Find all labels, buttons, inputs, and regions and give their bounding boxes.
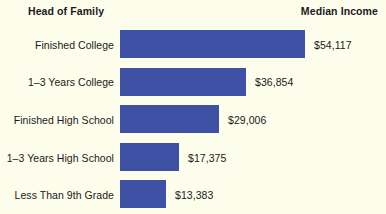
bar-value-label: $36,854	[255, 76, 293, 88]
bar-value-label: $29,006	[228, 114, 266, 126]
bar-row: Finished High School$29,006	[0, 101, 386, 139]
bar-value-label: $54,117	[314, 39, 352, 51]
category-label: Finished College	[0, 39, 114, 51]
median-income-bar-chart: Head of Family Median Income Finished Co…	[0, 0, 386, 214]
category-label: Less Than 9th Grade	[0, 189, 114, 201]
bar	[120, 30, 305, 58]
bar-row: 1–3 Years College$36,854	[0, 64, 386, 102]
bar-row: Less Than 9th Grade$13,383	[0, 176, 386, 214]
bar	[120, 180, 166, 208]
bar-row: Finished College$54,117	[0, 26, 386, 64]
chart-header: Head of Family Median Income	[0, 0, 386, 26]
bar	[120, 105, 219, 133]
bar	[120, 68, 246, 96]
category-label: Finished High School	[0, 114, 114, 126]
bar-rows: Finished College$54,1171–3 Years College…	[0, 26, 386, 214]
bar	[120, 143, 179, 171]
category-label: 1–3 Years High School	[0, 152, 114, 164]
head-of-family-column-title: Head of Family	[28, 5, 104, 17]
bar-value-label: $17,375	[188, 152, 226, 164]
bar-value-label: $13,383	[175, 189, 213, 201]
bar-row: 1–3 Years High School$17,375	[0, 139, 386, 177]
category-label: 1–3 Years College	[0, 76, 114, 88]
median-income-column-title: Median Income	[301, 5, 378, 17]
